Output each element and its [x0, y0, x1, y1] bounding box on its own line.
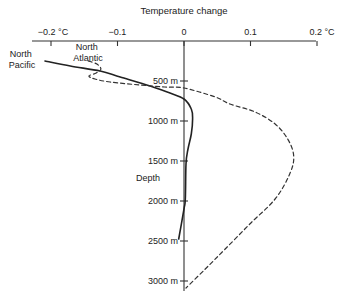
series-labels: North Pacific North Atlantic [9, 42, 104, 70]
temperature-depth-chart: −0.2 °C−0.100.10.2 °C Temperature change… [0, 0, 344, 307]
x-tick-label: −0.2 °C [38, 27, 69, 37]
north-pacific-label: North Pacific [9, 49, 36, 70]
x-tick-label: 0.2 °C [309, 27, 335, 37]
y-axis: 500 m1000 m1500 m2000 m2500 m3000 m Dept… [136, 41, 188, 291]
north-atlantic-label-line1: North [76, 42, 98, 52]
y-tick-label: 2000 m [148, 196, 178, 206]
x-axis: −0.2 °C−0.100.10.2 °C Temperature change [32, 5, 335, 46]
y-tick-label: 500 m [153, 76, 178, 86]
x-tick-label: 0 [181, 27, 186, 37]
y-tick-label: 2500 m [148, 236, 178, 246]
y-tick-label: 1500 m [148, 156, 178, 166]
x-tick-label: 0.1 [244, 27, 257, 37]
y-tick-label: 3000 m [148, 276, 178, 286]
x-tick-label: −0.1 [109, 27, 127, 37]
north-atlantic-label-line2: Atlantic [73, 53, 103, 63]
chart-title: Temperature change [140, 5, 227, 16]
y-axis-label: Depth [136, 173, 160, 183]
y-tick-label: 1000 m [148, 116, 178, 126]
north-pacific-label-line1: North [10, 49, 32, 59]
north-pacific-label-line2: Pacific [9, 60, 36, 70]
series-layer [45, 61, 294, 288]
north-atlantic-series-line [88, 61, 294, 288]
north-atlantic-label: North Atlantic [73, 42, 103, 63]
